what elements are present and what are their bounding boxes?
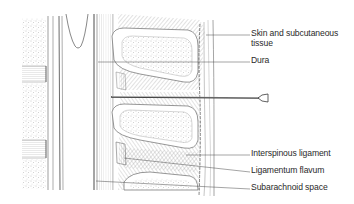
label-subarachnoid-space: Subarachnoid space bbox=[251, 183, 328, 193]
vertebral-bodies bbox=[22, 18, 46, 189]
label-interspinous-text: Interspinous ligament bbox=[251, 149, 331, 159]
label-interspinous-ligament: Interspinous ligament bbox=[251, 149, 331, 159]
conus-medullaris bbox=[66, 14, 88, 48]
label-dura: Dura bbox=[251, 56, 269, 66]
label-subarachnoid-text: Subarachnoid space bbox=[251, 183, 328, 193]
label-ligamentum-flavum: Ligamentum flavum bbox=[251, 166, 324, 176]
epidural-tissue bbox=[99, 14, 113, 190]
ligamentum-flavum-band bbox=[122, 148, 198, 172]
label-skin-and-subcutaneous-tissue: Skin and subcutaneous tissue bbox=[251, 29, 338, 48]
label-flavum-text: Ligamentum flavum bbox=[251, 166, 324, 176]
posterior-dura-lines bbox=[94, 14, 97, 190]
label-dura-text: Dura bbox=[251, 56, 269, 66]
anterior-canal-lines bbox=[48, 16, 63, 190]
label-skin-line2: tissue bbox=[251, 39, 338, 49]
